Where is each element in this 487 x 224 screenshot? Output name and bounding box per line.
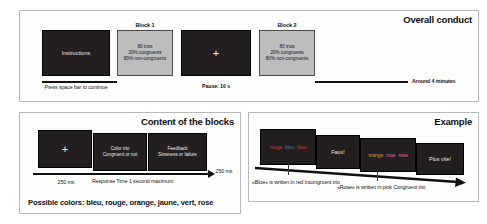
block2-noncongruent: 80% non-congruents bbox=[266, 56, 308, 62]
caption-press-space: Press space bar to continue bbox=[36, 84, 116, 92]
screen-instructions: Instructions bbox=[42, 30, 110, 76]
example-feedback2-label: Plus vite! bbox=[429, 156, 451, 163]
caption-total-duration: Around 4 minutes bbox=[412, 78, 455, 86]
caption-time-response: Response Time 1 second maximum bbox=[92, 178, 160, 186]
timeline-segment-instructions bbox=[42, 81, 117, 83]
timeline-segment-end bbox=[315, 81, 408, 83]
fixation-cross-icon: + bbox=[62, 144, 68, 155]
caption-pause: Pause: 10 s bbox=[183, 83, 249, 91]
time-arrow-line bbox=[33, 173, 209, 175]
annotation-trio1: «Blue» is written in red Incongruent tri… bbox=[252, 179, 326, 187]
annotation-trio2-line1: «Rose» is written in pink bbox=[337, 184, 392, 190]
example-trio1-word-2: bleu bbox=[297, 144, 306, 150]
block1-noncongruent: 80% non-congruents bbox=[124, 56, 166, 62]
example-feedback1-label: Faux! bbox=[331, 149, 344, 156]
screen-pause: + bbox=[181, 30, 251, 76]
annotation-trio2: «Rose» is written in pink Congruent trio bbox=[337, 184, 419, 192]
panel-title-example: Example bbox=[434, 116, 472, 127]
caption-time-feedback: 250 ms bbox=[208, 168, 240, 176]
figure-root: { "panels": { "overall": { "title": "Ove… bbox=[0, 0, 487, 224]
example-trio2-word-1: rose bbox=[386, 152, 395, 158]
footnote-possible-colors: Possible colors: bleu, rouge, orange, ja… bbox=[28, 198, 213, 207]
example-trio1-word-1: bleu bbox=[285, 144, 294, 150]
screen-instructions-label: Instructions bbox=[62, 50, 91, 57]
screen-example-trio1: rouge bleu bleu bbox=[260, 129, 316, 165]
panel-title-content-of-blocks: Content of the blocks bbox=[141, 116, 234, 127]
screen-color-trio: Color trio Congruent or not bbox=[93, 133, 147, 171]
panel-content-of-blocks: Content of the blocks + Color trio Congr… bbox=[19, 112, 241, 214]
caption-press-space-line2: to continue bbox=[83, 84, 108, 90]
example-tick-trio2 bbox=[377, 170, 378, 181]
caption-response-time-line1: Response Time bbox=[92, 178, 128, 184]
panel-title-overall-conduct: Overall conduct bbox=[403, 14, 472, 25]
panel-example: Example rouge bleu bleu Faux! orange ros… bbox=[248, 112, 479, 202]
example-trio1-word-0: rouge bbox=[270, 144, 282, 150]
screen-fixation: + bbox=[38, 130, 92, 168]
example-trio2-word-0: orange bbox=[368, 152, 383, 158]
annotation-trio1-line1: «Blue» is written in red bbox=[252, 179, 303, 185]
screen-feedback: Feedback Slowness or failure bbox=[148, 133, 207, 171]
example-trio2-words: orange rose rose bbox=[368, 152, 408, 158]
block1-label: Block 1 bbox=[117, 22, 173, 28]
caption-time-fixation: 250 ms bbox=[42, 179, 90, 187]
fixation-cross-icon: + bbox=[213, 48, 219, 59]
annotation-trio2-line2: Congruent trio bbox=[393, 184, 425, 190]
example-trio1-words: rouge bleu bleu bbox=[270, 144, 306, 150]
screen-feedback-line2: Slowness or failure bbox=[158, 152, 197, 158]
example-trio2-word-2: rose bbox=[398, 152, 407, 158]
caption-press-space-line1: Press space bar bbox=[45, 84, 82, 90]
block2-label: Block 2 bbox=[259, 22, 315, 28]
screen-block1: 80 trios 20% congruents 80% non-congruen… bbox=[117, 30, 173, 76]
example-tick-trio1 bbox=[288, 164, 289, 175]
annotation-trio1-line2: Incongruent trio bbox=[305, 179, 340, 185]
panel-overall-conduct: Overall conduct Instructions Block 1 80 … bbox=[19, 10, 479, 102]
screen-block2: 80 trios 20% congruents 80% non-congruen… bbox=[259, 30, 315, 76]
caption-response-time-line2: 1 second maximum bbox=[129, 178, 173, 184]
screen-color-trio-line2: Congruent or not bbox=[103, 152, 137, 158]
